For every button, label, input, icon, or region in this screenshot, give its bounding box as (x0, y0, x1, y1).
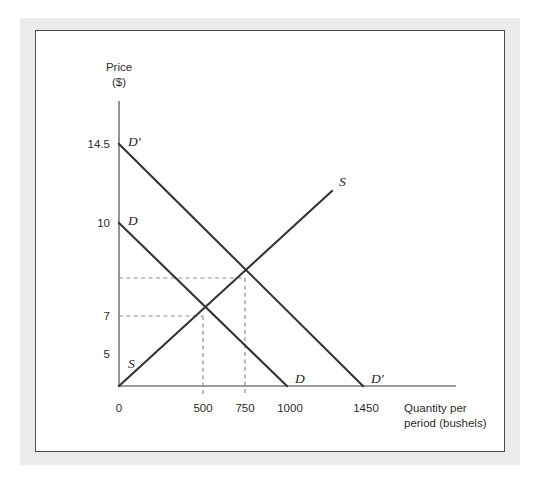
chart-svg: 14.5 10 7 5 0 500 750 1000 1450 Price ($… (36, 31, 506, 453)
y-axis-title-line1: Price (106, 61, 132, 73)
x-axis-title-line2: period (bushels) (404, 417, 487, 429)
y-axis-title-line2: ($) (112, 76, 126, 88)
curve-label-d-end: D (294, 371, 305, 386)
supply-demand-chart: 14.5 10 7 5 0 500 750 1000 1450 Price ($… (36, 31, 506, 453)
x-axis-title-line1: Quantity per (404, 402, 467, 414)
y-tick-7: 7 (104, 310, 110, 322)
x-tick-0: 0 (116, 402, 122, 414)
figure-card: 14.5 10 7 5 0 500 750 1000 1450 Price ($… (35, 30, 505, 452)
y-tick-14-5: 14.5 (88, 138, 110, 150)
x-tick-1000: 1000 (277, 402, 303, 414)
curve-label-d-start: D (127, 213, 138, 228)
demand-curve-d-prime (119, 144, 363, 386)
x-tick-750: 750 (235, 402, 254, 414)
supply-curve (119, 191, 332, 386)
y-tick-5: 5 (104, 348, 110, 360)
x-tick-500: 500 (193, 402, 212, 414)
curve-label-d-prime-end: D' (370, 371, 385, 386)
y-tick-10: 10 (97, 217, 110, 229)
curve-label-d-prime-start: D' (127, 134, 142, 149)
curve-label-s-end: S (339, 174, 346, 189)
screenshot-root: 14.5 10 7 5 0 500 750 1000 1450 Price ($… (0, 0, 540, 488)
curve-label-s-start: S (128, 356, 135, 371)
x-tick-1450: 1450 (353, 402, 379, 414)
